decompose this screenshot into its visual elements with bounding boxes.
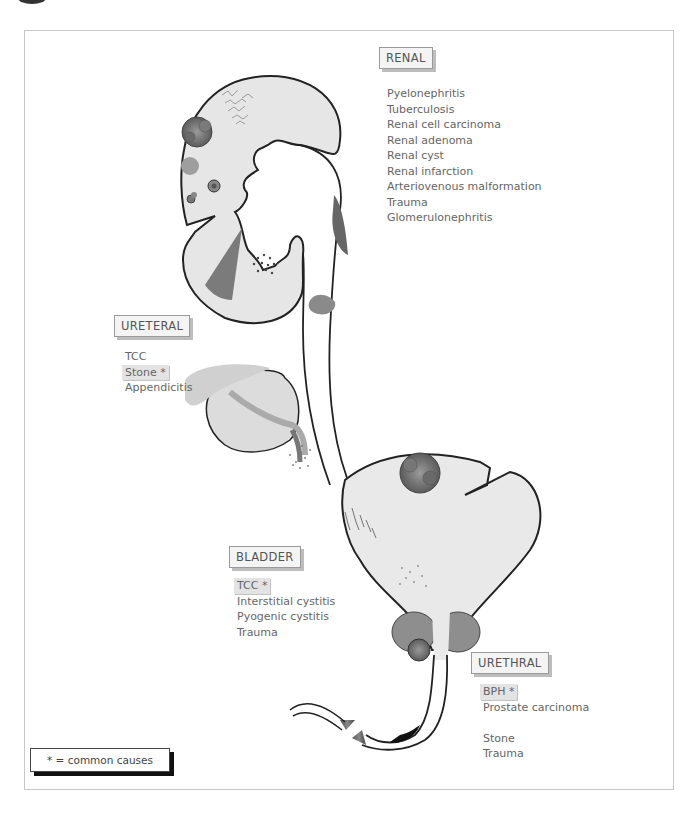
renal-cause: Tuberculosis [387,102,542,118]
renal-cause: Trauma [387,195,542,211]
bladder-label: BLADDER [229,546,301,568]
renal-cause: Arteriovenous malformation [387,179,542,195]
urethral-causes-list: BPH * Prostate carcinoma Stone Trauma [483,684,589,762]
ureteral-label: URETERAL [114,315,190,337]
bladder-cause-common: TCC * [234,578,270,594]
kidney [181,76,340,323]
urethral-cause-spacer [483,715,589,731]
renal-causes-list: Pyelonephritis Tuberculosis Renal cell c… [387,86,542,226]
renal-cause: Renal infarction [387,164,542,180]
urethral-label: URETHRAL [471,652,549,674]
renal-cause: Renal cell carcinoma [387,117,542,133]
urethral-cause: Trauma [483,746,589,762]
renal-cause: Glomerulonephritis [387,210,542,226]
bladder-cause: Trauma [237,625,335,641]
ureter [300,145,348,485]
urethral-cause-common: BPH * [480,684,517,700]
urethral-cause: Stone [483,731,589,747]
urinary-tract-illustration [0,0,695,818]
cecum-appendix [185,364,311,469]
bladder-cause: Interstitial cystitis [237,594,335,610]
renal-label: RENAL [379,47,433,69]
renal-cause: Pyelonephritis [387,86,542,102]
ureteral-causes-list: TCC Stone * Appendicitis [125,349,192,396]
legend-common-causes: * = common causes [30,748,170,772]
bladder-causes-list: TCC * Interstitial cystitis Pyogenic cys… [237,578,335,640]
renal-cause: Renal cyst [387,148,542,164]
bladder-cause: Pyogenic cystitis [237,609,335,625]
ureteral-cause: TCC [125,349,192,365]
ureteral-cause-common: Stone * [122,365,169,381]
ureteral-cause: Appendicitis [125,380,192,396]
urethral-cause: Prostate carcinoma [483,700,589,716]
renal-cause: Renal adenoma [387,133,542,149]
